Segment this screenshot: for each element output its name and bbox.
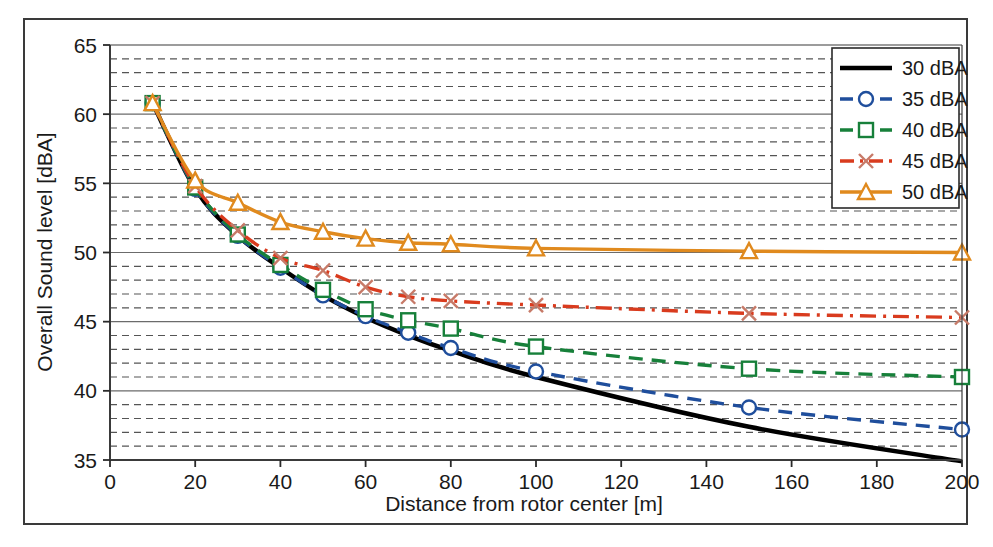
legend-label: 50 dBA — [902, 181, 968, 203]
data-point-marker-circle — [529, 364, 543, 378]
sound-level-chart: 35404550556065 0204060801001201401601802… — [0, 0, 993, 547]
y-axis-tick-labels: 35404550556065 — [74, 34, 97, 472]
y-axis-ticks — [103, 45, 110, 460]
x-tick-label: 140 — [689, 470, 724, 493]
data-point-marker-square — [359, 302, 373, 316]
x-tick-label: 200 — [944, 470, 979, 493]
legend-label: 30 dBA — [902, 57, 968, 79]
data-point-marker-square — [742, 362, 756, 376]
y-tick-label: 55 — [74, 172, 97, 195]
x-axis-title: Distance from rotor center [m] — [385, 492, 663, 515]
x-axis-ticks — [110, 460, 962, 467]
x-tick-label: 60 — [354, 470, 377, 493]
data-point-marker-square — [529, 340, 543, 354]
data-point-marker-square — [401, 313, 415, 327]
y-tick-label: 50 — [74, 241, 97, 264]
y-tick-label: 35 — [74, 449, 97, 472]
x-tick-label: 180 — [859, 470, 894, 493]
data-point-marker-square — [859, 123, 873, 137]
data-point-marker-square — [444, 322, 458, 336]
y-tick-label: 65 — [74, 34, 97, 57]
x-tick-label: 160 — [774, 470, 809, 493]
y-tick-label: 40 — [74, 379, 97, 402]
legend-label: 40 dBA — [902, 119, 968, 141]
x-tick-label: 120 — [604, 470, 639, 493]
x-tick-label: 40 — [269, 470, 292, 493]
legend-label: 35 dBA — [902, 88, 968, 110]
y-tick-label: 60 — [74, 103, 97, 126]
x-tick-label: 80 — [439, 470, 462, 493]
x-tick-label: 100 — [518, 470, 553, 493]
data-point-marker-circle — [742, 400, 756, 414]
data-point-marker-circle — [444, 341, 458, 355]
figure-canvas: 35404550556065 0204060801001201401601802… — [0, 0, 993, 547]
x-axis-tick-labels: 020406080100120140160180200 — [104, 470, 979, 493]
x-tick-label: 0 — [104, 470, 116, 493]
chart-legend: 30 dBA35 dBA40 dBA45 dBA50 dBA — [832, 48, 968, 208]
data-point-marker-square — [316, 283, 330, 297]
y-axis-title: Overall Sound level [dBA] — [33, 132, 56, 371]
data-point-marker-circle — [859, 92, 873, 106]
x-tick-label: 20 — [184, 470, 207, 493]
legend-label: 45 dBA — [902, 150, 968, 172]
y-tick-label: 45 — [74, 310, 97, 333]
legend-item-40-dba[interactable]: 40 dBA — [840, 119, 968, 141]
